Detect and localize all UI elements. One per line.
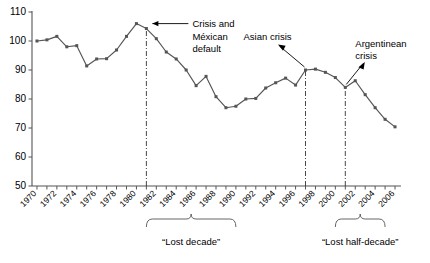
x-tick-label: 1978	[98, 188, 119, 209]
data-point-marker	[65, 45, 68, 48]
y-tick-label: 60	[15, 151, 27, 162]
y-tick-label: 80	[15, 93, 27, 104]
data-point-marker	[364, 93, 367, 96]
y-tick-label: 100	[9, 35, 26, 46]
data-point-marker	[344, 86, 347, 89]
y-tick-label: 110	[10, 6, 26, 17]
data-point-marker	[374, 106, 377, 109]
data-point-marker	[145, 27, 148, 30]
lost-half-decade-label: “Lost half-decade”	[322, 236, 399, 247]
data-point-marker	[75, 44, 78, 47]
data-point-marker	[125, 35, 128, 38]
data-point-marker	[254, 97, 257, 100]
data-point-marker	[234, 105, 237, 108]
data-point-marker	[284, 77, 287, 80]
annotation-argentinean-crisis-line2: crisis	[355, 50, 377, 61]
data-point-marker	[185, 69, 188, 72]
data-point-marker	[264, 86, 267, 89]
y-tick-label: 50	[15, 180, 27, 191]
y-tick-label: 70	[15, 122, 27, 133]
x-tick-label: 2002	[336, 188, 357, 209]
data-point-marker	[205, 75, 208, 78]
annotation-mexican-default-line: Crisis and	[192, 18, 234, 29]
data-point-marker	[115, 48, 118, 51]
x-tick-label: 1986	[177, 188, 198, 209]
data-point-marker	[334, 76, 337, 79]
x-tick-label: 1998	[296, 188, 317, 209]
data-point-marker	[195, 84, 198, 87]
x-tick-label: 1972	[38, 188, 59, 209]
y-tick-label: 90	[15, 64, 27, 75]
chart-container: 1101009080706050197019721974197619781980…	[0, 0, 430, 263]
x-tick-label: 2006	[376, 188, 397, 209]
data-point-marker	[294, 84, 297, 87]
data-point-marker	[215, 95, 218, 98]
x-tick-label: 1974	[58, 188, 79, 209]
x-tick-label: 1982	[137, 188, 158, 209]
x-tick-label: 1984	[157, 188, 178, 209]
data-point-marker	[244, 98, 247, 101]
data-point-marker	[314, 68, 317, 71]
data-point-marker	[274, 81, 277, 84]
data-point-marker	[175, 57, 178, 60]
annotation-asian-crisis: Asian crisis	[244, 31, 292, 42]
x-tick-label: 2000	[316, 188, 337, 209]
data-point-marker	[55, 35, 58, 38]
x-tick-label: 1996	[277, 188, 298, 209]
data-point-marker	[354, 79, 357, 82]
x-tick-label: 1976	[78, 188, 99, 209]
data-point-marker	[165, 51, 168, 54]
data-point-marker	[384, 118, 387, 121]
annotation-argentinean-crisis-line1: Argentinean	[355, 38, 406, 49]
x-tick-label: 1980	[117, 188, 138, 209]
data-point-marker	[135, 22, 138, 25]
x-tick-label: 1992	[237, 188, 258, 209]
gdp-index-line-chart: 1101009080706050197019721974197619781980…	[0, 0, 430, 263]
data-point-marker	[324, 71, 327, 74]
data-point-marker	[105, 57, 108, 60]
lost-decade-label: “Lost decade”	[162, 236, 220, 247]
x-tick-label: 2004	[356, 188, 377, 209]
data-point-marker	[85, 64, 88, 67]
data-point-marker	[155, 37, 158, 40]
x-tick-label: 1990	[217, 188, 238, 209]
x-tick-label: 1970	[18, 188, 39, 209]
mexican-default-arrow-head	[152, 21, 158, 26]
data-point-marker	[224, 106, 227, 109]
lost-decade-brace	[146, 214, 236, 227]
x-tick-label: 1994	[257, 188, 278, 209]
data-point-marker	[35, 40, 38, 43]
x-tick-label: 1988	[197, 188, 218, 209]
data-point-marker	[394, 125, 397, 128]
lost-half-decade-brace	[335, 214, 385, 227]
data-point-marker	[304, 69, 307, 72]
annotation-mexican-default-line: Méxican	[192, 31, 227, 42]
data-point-marker	[95, 57, 98, 60]
data-point-marker	[45, 38, 48, 41]
annotation-mexican-default-line: default	[192, 43, 221, 54]
